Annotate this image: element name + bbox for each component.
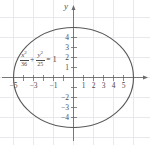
x-term-fraction: x2 36 — [20, 52, 29, 67]
x-tick-label-4: 4 — [112, 82, 116, 90]
y-tick-label-1: 1 — [60, 64, 69, 72]
x-tick-label-3: 3 — [102, 82, 106, 90]
y-term-fraction: y2 25 — [36, 52, 45, 67]
y-tick-label-3: 3 — [60, 44, 69, 52]
plus-sign: + — [30, 56, 34, 64]
y-term-numerator: y2 — [36, 52, 44, 59]
equals-sign: = — [46, 56, 50, 64]
x-tick-label-2: 2 — [92, 82, 96, 90]
x-tick-label-1: 1 — [82, 82, 86, 90]
y-tick-label-neg3: −3 — [56, 104, 69, 112]
coordinate-plane — [0, 0, 150, 145]
ellipse-equation-annotation: x2 36 + y2 25 = 1 — [19, 52, 57, 67]
y-tick-label-neg4: −4 — [56, 114, 69, 122]
equation-right-side: 1 — [52, 55, 56, 64]
x-term-numerator: x2 — [20, 52, 28, 59]
y-tick-label-4: 4 — [60, 34, 69, 42]
x-tick-label-neg5: −5 — [10, 82, 18, 90]
y-term-denominator: 25 — [36, 61, 44, 67]
ellipse-figure: y x2 36 + y2 25 = 1 −5 −3 −1 1 2 3 4 5 4… — [0, 0, 150, 145]
x-term-denominator: 36 — [20, 61, 28, 67]
x-tick-label-neg3: −3 — [30, 82, 38, 90]
x-tick-label-neg1: −1 — [50, 82, 58, 90]
y-axis — [72, 5, 76, 141]
x-tick-label-5: 5 — [122, 82, 126, 90]
y-tick-label-neg2: −2 — [56, 94, 69, 102]
y-tick-label-2: 2 — [60, 54, 69, 62]
y-axis-label: y — [64, 2, 68, 11]
